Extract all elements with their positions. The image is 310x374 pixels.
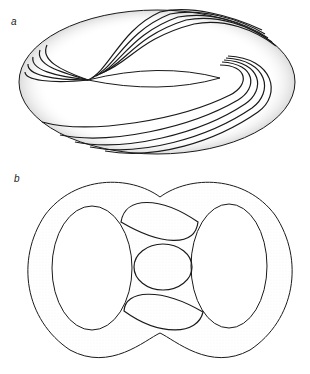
diagram-canvas — [0, 0, 310, 374]
right-handle-hole — [191, 204, 267, 328]
double-torus-figure — [28, 182, 292, 357]
torus-figure — [19, 10, 295, 154]
left-handle-hole — [52, 206, 132, 330]
